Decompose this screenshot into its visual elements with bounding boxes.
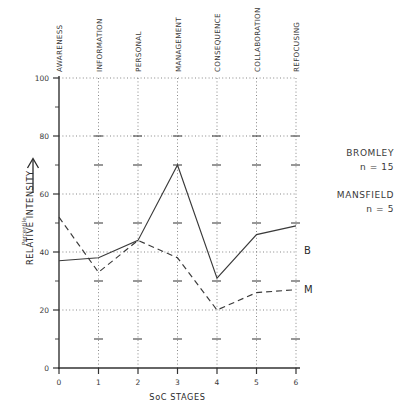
y-tick-label: 0 [44,364,49,373]
y-tick-label: 80 [39,132,49,141]
y-axis-ticks [53,78,59,368]
y-tick-label: 100 [35,74,50,83]
x-tick-label: 5 [254,378,259,387]
x-tick-label: 0 [57,378,62,387]
x-axis-ticks [59,368,296,374]
x-tick-labels: 0 1 2 3 4 5 6 [57,378,299,387]
stage-label-management: MANAGEMENT [174,17,183,72]
x-tick-label: 4 [215,378,220,387]
y-axis-subtitle: Percentile [21,217,27,245]
series-tag-bromley: B [304,245,311,256]
soc-stages-profile-chart: 100 80 60 40 20 0 0 1 2 3 4 5 6 [0,0,415,409]
legend: BROMLEY n = 15 MANSFIELD n = 5 [337,148,394,214]
series-tag-mansfield: M [304,284,313,295]
legend-n-bromley: n = 15 [360,162,394,172]
y-tick-label: 60 [39,190,49,199]
y-axis-title-group: RELATIVE INTENSITY Percentile [21,159,39,266]
stage-label-information: INFORMATION [95,18,104,72]
stage-label-refocusing: REFOCUSING [292,22,301,72]
stage-label-awareness: AWARENESS [55,24,64,72]
x-tick-label: 6 [294,378,299,387]
x-tick-label: 1 [96,378,101,387]
x-axis-title: SoC STAGES [149,392,205,402]
stage-label-personal: PERSONAL [134,31,143,72]
y-tick-labels: 100 80 60 40 20 0 [35,74,50,373]
stage-label-collaboration: COLLABORATION [253,7,262,72]
legend-n-mansfield: n = 5 [366,204,394,214]
chart-canvas: 100 80 60 40 20 0 0 1 2 3 4 5 6 [0,0,415,409]
y-tick-label: 20 [39,306,49,315]
y-tick-label: 40 [39,248,49,257]
inner-tick-marks [94,136,300,339]
legend-name-mansfield: MANSFIELD [337,190,394,200]
x-tick-label: 3 [175,378,180,387]
legend-name-bromley: BROMLEY [346,148,394,158]
stage-label-consequence: CONSEQUENCE [213,13,222,72]
stage-name-labels: AWARENESS INFORMATION PERSONAL MANAGEMEN… [55,7,301,72]
x-tick-label: 2 [136,378,141,387]
